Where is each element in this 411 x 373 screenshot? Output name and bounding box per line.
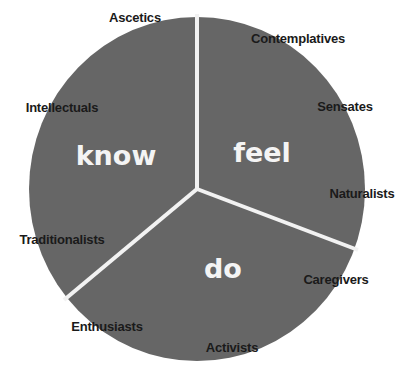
sub-label-naturalists: Naturalists <box>330 186 395 201</box>
sub-label-enthusiasts: Enthusiasts <box>71 319 142 334</box>
sub-label-intellectuals: Intellectuals <box>26 100 99 115</box>
three-way-pie-diagram: know feel do Ascetics Intellectuals Trad… <box>0 0 411 373</box>
sub-label-activists: Activists <box>206 340 258 355</box>
segment-label-feel: feel <box>233 137 291 168</box>
sub-label-ascetics: Ascetics <box>109 10 161 25</box>
segment-label-do: do <box>204 253 242 284</box>
sub-label-traditionalists: Traditionalists <box>19 232 104 247</box>
sub-label-sensates: Sensates <box>317 99 373 114</box>
sub-label-caregivers: Caregivers <box>303 272 368 287</box>
segment-label-know: know <box>76 140 157 171</box>
sub-label-contemplatives: Contemplatives <box>251 31 345 46</box>
